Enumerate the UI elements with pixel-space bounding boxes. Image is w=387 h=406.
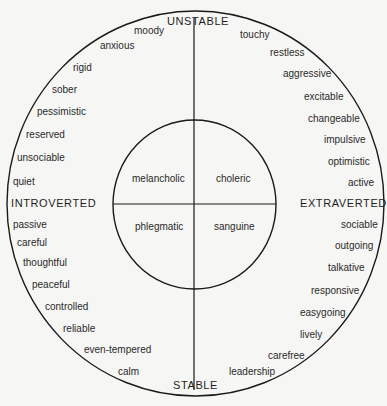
trait-thoughtful: thoughtful — [23, 257, 67, 269]
trait-active: active — [348, 177, 374, 189]
trait-moody: moody — [134, 25, 164, 37]
axis-label-introverted: INTROVERTED — [11, 197, 96, 210]
trait-responsive: responsive — [311, 285, 359, 297]
trait-outgoing: outgoing — [335, 240, 373, 252]
trait-touchy: touchy — [240, 29, 269, 41]
trait-quiet: quiet — [13, 176, 35, 188]
trait-excitable: excitable — [304, 91, 343, 103]
axis-label-stable: STABLE — [173, 379, 218, 392]
trait-pessimistic: pessimistic — [37, 106, 86, 118]
trait-passive: passive — [13, 219, 47, 231]
trait-even-tempered: even-tempered — [84, 344, 151, 356]
trait-aggressive: aggressive — [283, 68, 331, 80]
trait-easygoing: easygoing — [300, 307, 346, 319]
trait-calm: calm — [118, 366, 139, 378]
trait-carefree: carefree — [268, 350, 305, 362]
temperament-choleric: choleric — [216, 173, 250, 185]
trait-rigid: rigid — [73, 62, 92, 74]
trait-changeable: changeable — [308, 113, 360, 125]
trait-unsociable: unsociable — [17, 152, 65, 164]
temperament-sanguine: sanguine — [214, 221, 255, 233]
trait-reserved: reserved — [26, 129, 65, 141]
axis-label-unstable: UNSTABLE — [167, 15, 229, 28]
trait-optimistic: optimistic — [328, 156, 370, 168]
trait-sociable: sociable — [341, 219, 378, 231]
trait-talkative: talkative — [328, 262, 365, 274]
trait-careful: careful — [17, 237, 47, 249]
axis-label-extraverted: EXTRAVERTED — [300, 197, 387, 210]
temperament-melancholic: melancholic — [132, 173, 185, 185]
trait-anxious: anxious — [100, 40, 134, 52]
trait-controlled: controlled — [45, 301, 88, 313]
trait-lively: lively — [300, 329, 322, 341]
trait-restless: restless — [270, 47, 304, 59]
trait-leadership: leadership — [229, 366, 275, 378]
temperament-phlegmatic: phlegmatic — [135, 221, 183, 233]
trait-impulsive: impulsive — [324, 134, 366, 146]
trait-reliable: reliable — [63, 323, 95, 335]
trait-sober: sober — [52, 84, 77, 96]
trait-peaceful: peaceful — [32, 279, 70, 291]
